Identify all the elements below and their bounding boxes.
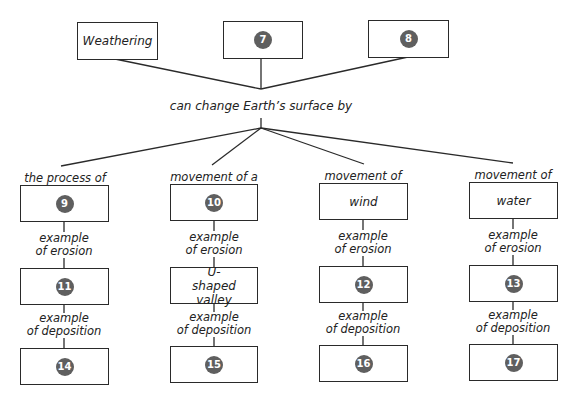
col2-deposition-label: example of deposition xyxy=(164,311,264,337)
number-badge-16: 16 xyxy=(355,355,373,373)
blank-box-9[interactable]: 9 xyxy=(20,185,109,222)
number-badge-11: 11 xyxy=(56,278,74,296)
water-label: water xyxy=(496,194,530,208)
number-badge-14: 14 xyxy=(56,358,74,376)
number-badge-7: 7 xyxy=(254,31,272,49)
blank-box-7[interactable]: 7 xyxy=(223,21,303,59)
weathering-label: Weathering xyxy=(83,34,153,48)
blank-box-10[interactable]: 10 xyxy=(170,184,258,221)
number-badge-17: 17 xyxy=(505,354,523,372)
blank-box-16[interactable]: 16 xyxy=(319,345,408,382)
number-badge-9: 9 xyxy=(56,195,74,213)
weathering-box: Weathering xyxy=(77,22,158,60)
col3-deposition-label: example of deposition xyxy=(313,310,413,336)
blank-box-13[interactable]: 13 xyxy=(469,265,558,302)
blank-box-11[interactable]: 11 xyxy=(20,268,109,305)
col4-erosion-label: example of erosion xyxy=(463,229,563,255)
number-badge-10: 10 xyxy=(205,194,223,212)
center-label: can change Earth’s surface by xyxy=(161,100,361,113)
blank-box-8[interactable]: 8 xyxy=(368,20,449,58)
blank-box-15[interactable]: 15 xyxy=(170,346,258,383)
wind-label: wind xyxy=(349,195,377,209)
blank-box-17[interactable]: 17 xyxy=(469,344,558,381)
col1-header: the process of xyxy=(20,172,110,185)
col4-header: movement of xyxy=(468,169,558,182)
col1-deposition-label: example of deposition xyxy=(14,312,114,338)
col3-header: movement of xyxy=(318,170,408,183)
wind-box: wind xyxy=(319,183,408,220)
col4-deposition-label: example of deposition xyxy=(463,309,563,335)
u-shaped-valley-label: U-shaped valley xyxy=(189,265,239,307)
number-badge-8: 8 xyxy=(400,30,418,48)
number-badge-12: 12 xyxy=(355,276,373,294)
col1-erosion-label: example of erosion xyxy=(14,232,114,258)
water-box: water xyxy=(469,182,558,219)
col2-header: movement of a xyxy=(169,171,259,184)
u-shaped-valley-box: U-shaped valley xyxy=(170,267,258,304)
number-badge-13: 13 xyxy=(505,275,523,293)
col2-erosion-label: example of erosion xyxy=(164,231,264,257)
col3-erosion-label: example of erosion xyxy=(313,230,413,256)
blank-box-12[interactable]: 12 xyxy=(319,266,408,303)
blank-box-14[interactable]: 14 xyxy=(20,348,109,385)
number-badge-15: 15 xyxy=(205,356,223,374)
